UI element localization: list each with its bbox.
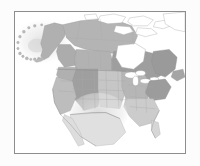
map-figure: Range map of North America: [0, 0, 200, 166]
north-america-map[interactable]: [15, 12, 185, 153]
map-frame-border: [14, 11, 186, 154]
